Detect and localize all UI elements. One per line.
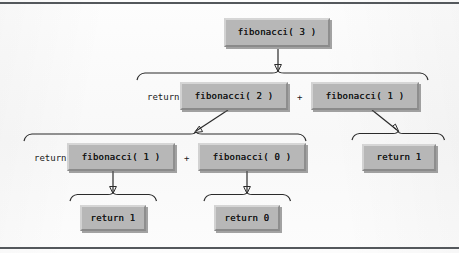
arrow-head-root — [275, 65, 282, 72]
arrow-head-fib1-l2 — [110, 187, 117, 194]
node-return-1-bottom[interactable]: return 1 — [80, 205, 146, 231]
plus-operator-level1: + — [297, 93, 302, 102]
brace-return1-right — [352, 131, 445, 140]
brace-return0-bottom — [204, 192, 291, 201]
figure-recursion-tree: fibonacci( 3 ) return fibonacci( 2 ) + f… — [0, 0, 459, 253]
arrow-head-fib1 — [392, 124, 398, 132]
arrow-head-fib2 — [194, 126, 202, 133]
node-label: fibonacci( 1 ) — [82, 153, 161, 162]
brace-level1 — [137, 71, 428, 81]
node-label: return 1 — [377, 153, 422, 162]
plus-operator-level2: + — [184, 154, 189, 163]
return-keyword-level1: return — [147, 93, 180, 102]
top-rule — [0, 2, 459, 4]
node-return-1-right[interactable]: return 1 — [362, 144, 436, 171]
arrow-shaft-fib1 — [372, 110, 397, 130]
node-label: fibonacci( 2 ) — [195, 92, 274, 101]
node-fibonacci-1-level2[interactable]: fibonacci( 1 ) — [67, 143, 175, 171]
node-label: return 0 — [225, 214, 270, 223]
node-label: return 1 — [91, 214, 136, 223]
node-fibonacci-0[interactable]: fibonacci( 0 ) — [198, 143, 306, 171]
node-label: fibonacci( 3 ) — [238, 28, 317, 37]
arrow-shaft-fib2 — [196, 110, 228, 131]
node-fibonacci-2[interactable]: fibonacci( 2 ) — [180, 82, 288, 110]
brace-return1-bottom — [70, 192, 157, 201]
node-fibonacci-3[interactable]: fibonacci( 3 ) — [224, 18, 330, 47]
return-keyword-level2: return — [34, 154, 67, 163]
arrow-head-fib0 — [244, 187, 251, 194]
node-fibonacci-1-level1[interactable]: fibonacci( 1 ) — [311, 82, 419, 110]
node-label: fibonacci( 0 ) — [213, 153, 292, 162]
node-return-0-bottom[interactable]: return 0 — [214, 205, 280, 231]
node-label: fibonacci( 1 ) — [326, 92, 405, 101]
brace-level2-left — [24, 132, 306, 142]
bottom-rule — [0, 247, 459, 249]
